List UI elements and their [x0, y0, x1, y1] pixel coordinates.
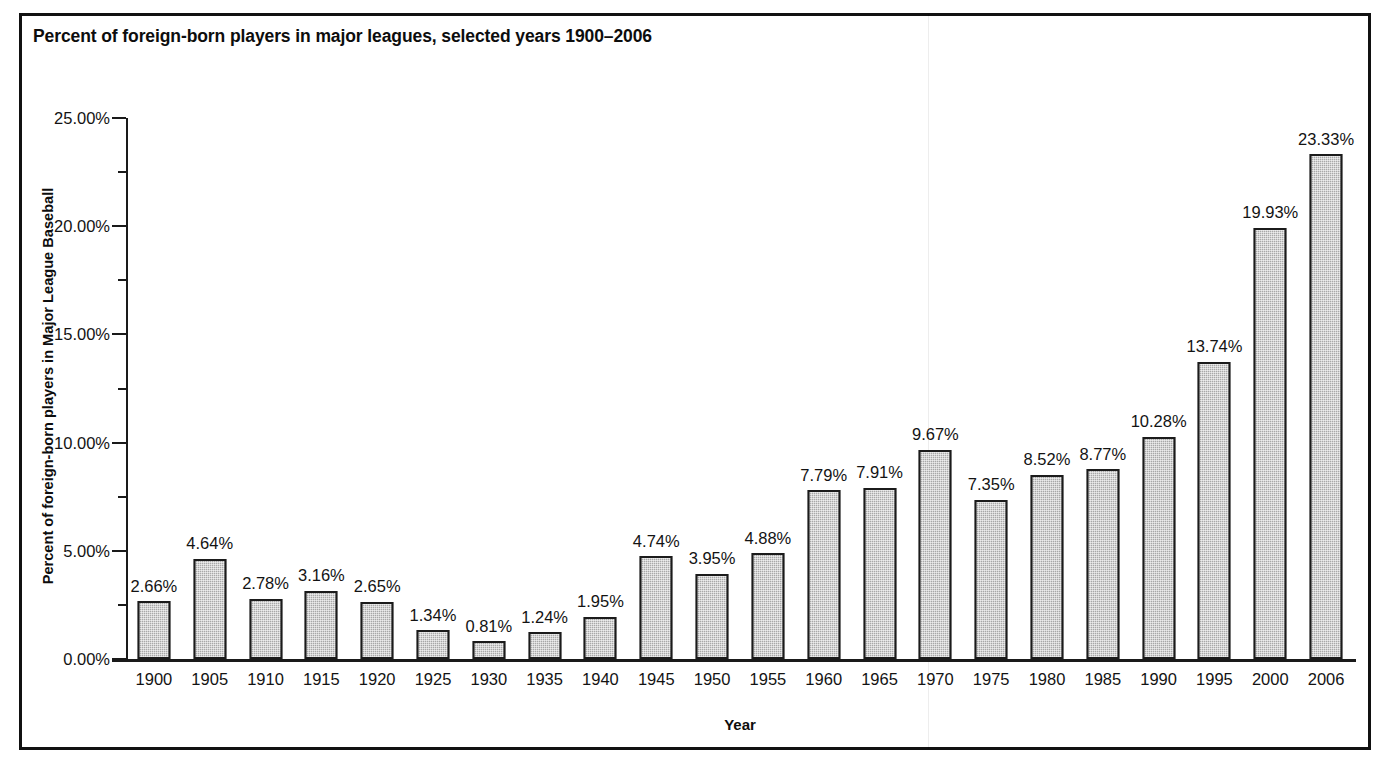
x-axis-tick-label: 2000	[1252, 670, 1289, 689]
x-axis-tick-label: 1920	[359, 670, 396, 689]
bar	[416, 630, 449, 659]
bar	[1030, 475, 1063, 659]
y-axis-tick-label: 20.00%	[6, 217, 110, 236]
x-axis-tick-label: 1910	[247, 670, 284, 689]
y-axis-tick-label: 10.00%	[6, 433, 110, 452]
x-axis-tick-label: 1960	[805, 670, 842, 689]
y-axis-tick-minor	[118, 171, 126, 173]
y-axis-tick-minor	[118, 496, 126, 498]
bar-group: 7.79%1960	[796, 118, 852, 659]
x-axis-tick-label: 2006	[1308, 670, 1345, 689]
x-axis-tick-label: 1900	[136, 670, 173, 689]
bar-group: 1.34%1925	[405, 118, 461, 659]
y-axis-tick-major	[112, 550, 126, 552]
bar-group: 2.78%1910	[238, 118, 294, 659]
bar-value-label: 1.95%	[577, 593, 624, 610]
y-axis-title: Percent of foreign-born players in Major…	[40, 126, 56, 646]
y-axis-tick-major	[112, 442, 126, 444]
bar-value-label: 10.28%	[1131, 413, 1187, 430]
bar-group: 2.66%1900	[126, 118, 182, 659]
bar-value-label: 1.24%	[521, 609, 568, 626]
bar	[193, 559, 226, 659]
bar	[863, 488, 896, 659]
bar-value-label: 13.74%	[1186, 338, 1242, 355]
bar-value-label: 2.66%	[131, 578, 178, 595]
bar	[584, 617, 617, 659]
bar-value-label: 8.52%	[1024, 451, 1071, 468]
chart-figure: Percent of foreign-born players in major…	[0, 0, 1381, 762]
x-axis-tick-label: 1905	[191, 670, 228, 689]
bar-value-label: 8.77%	[1079, 446, 1126, 463]
bar-group: 4.64%1905	[182, 118, 238, 659]
bar-value-label: 19.93%	[1242, 204, 1298, 221]
bar-value-label: 7.79%	[800, 467, 847, 484]
bar-value-label: 4.64%	[186, 535, 233, 552]
bar-value-label: 7.35%	[968, 476, 1015, 493]
bar	[1254, 228, 1287, 659]
y-axis-tick-major	[112, 225, 126, 227]
x-axis-line	[112, 659, 1356, 662]
bar-group: 8.77%1985	[1075, 118, 1131, 659]
y-axis-tick-label: 5.00%	[6, 541, 110, 560]
y-axis-tick-label: 25.00%	[6, 109, 110, 128]
x-axis-tick-label: 1995	[1196, 670, 1233, 689]
x-axis-tick-label: 1940	[582, 670, 619, 689]
x-axis-tick-label: 1990	[1140, 670, 1177, 689]
bar-group: 7.91%1965	[852, 118, 908, 659]
bar-value-label: 23.33%	[1298, 131, 1354, 148]
x-axis-tick-label: 1935	[526, 670, 563, 689]
bar	[975, 500, 1008, 659]
y-axis-tick-major	[112, 658, 126, 660]
x-axis-tick-label: 1965	[861, 670, 898, 689]
bar	[528, 632, 561, 659]
bar-group: 23.33%2006	[1298, 118, 1354, 659]
bar-group: 3.95%1950	[684, 118, 740, 659]
bar-group: 13.74%1995	[1187, 118, 1243, 659]
y-axis-tick-minor	[118, 604, 126, 606]
bar	[919, 450, 952, 659]
bar	[305, 591, 338, 659]
bar-value-label: 4.74%	[633, 533, 680, 550]
bar-group: 10.28%1990	[1131, 118, 1187, 659]
bar-value-label: 2.78%	[242, 575, 289, 592]
bar-group: 1.95%1940	[573, 118, 629, 659]
bar-group: 8.52%1980	[1019, 118, 1075, 659]
bar-group: 0.81%1930	[461, 118, 517, 659]
bar-group: 9.67%1970	[907, 118, 963, 659]
bar-group: 4.74%1945	[628, 118, 684, 659]
x-axis-tick-label: 1970	[917, 670, 954, 689]
bar	[472, 641, 505, 659]
x-axis-tick-label: 1930	[470, 670, 507, 689]
bar-group: 3.16%1915	[293, 118, 349, 659]
chart-title: Percent of foreign-born players in major…	[33, 26, 652, 47]
bar	[1086, 469, 1119, 659]
bar-value-label: 0.81%	[465, 618, 512, 635]
bar-group: 19.93%2000	[1242, 118, 1298, 659]
bar-value-label: 9.67%	[912, 426, 959, 443]
bar-group: 7.35%1975	[963, 118, 1019, 659]
bar	[807, 490, 840, 659]
bar-group: 2.65%1920	[349, 118, 405, 659]
y-axis-tick-minor	[118, 388, 126, 390]
bar-value-label: 7.91%	[856, 464, 903, 481]
bar-group: 4.88%1955	[740, 118, 796, 659]
x-axis-tick-label: 1975	[973, 670, 1010, 689]
bar-group: 1.24%1935	[517, 118, 573, 659]
x-axis-tick-label: 1925	[415, 670, 452, 689]
y-axis-tick-label: 15.00%	[6, 325, 110, 344]
bar-value-label: 4.88%	[745, 530, 792, 547]
bar	[1310, 154, 1343, 659]
plot-area: 2.66%19004.64%19052.78%19103.16%19152.65…	[126, 118, 1354, 659]
bar	[640, 556, 673, 659]
y-axis-tick-minor	[118, 279, 126, 281]
x-axis-tick-label: 1985	[1084, 670, 1121, 689]
bar-value-label: 1.34%	[410, 607, 457, 624]
bar	[137, 601, 170, 659]
bar-value-label: 3.16%	[298, 567, 345, 584]
y-axis-tick-label: 0.00%	[6, 650, 110, 669]
x-axis-tick-label: 1980	[1029, 670, 1066, 689]
x-axis-tick-label: 1950	[694, 670, 731, 689]
bar-value-label: 3.95%	[689, 550, 736, 567]
x-axis-title: Year	[126, 716, 1354, 733]
x-axis-tick-label: 1955	[750, 670, 787, 689]
